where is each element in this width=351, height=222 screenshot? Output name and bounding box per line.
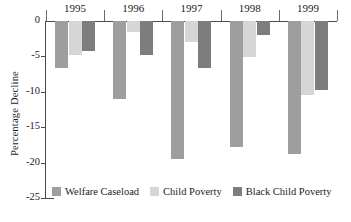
bar-group (104, 21, 162, 198)
group-separator (162, 10, 163, 21)
plot-area (46, 21, 337, 198)
bar (301, 21, 314, 95)
legend-swatch-icon (150, 187, 159, 196)
bar (82, 21, 95, 51)
x-category-label-1995: 1995 (46, 3, 104, 14)
legend-item: Welfare Caseload (52, 186, 139, 197)
group-separator (221, 10, 222, 21)
bar-group (162, 21, 220, 198)
group-separator (337, 10, 338, 21)
y-tick-label: -25 (14, 192, 40, 203)
bar (315, 21, 328, 90)
y-tick-label: -10 (14, 86, 40, 97)
bar (69, 21, 82, 55)
bar (198, 21, 211, 68)
bar-chart: Percentage Decline 0-5-10-15-20-25 19951… (0, 0, 351, 222)
bar (185, 21, 198, 42)
legend-item: Black Child Poverty (233, 186, 332, 197)
bar-group (279, 21, 337, 198)
bar (140, 21, 153, 55)
bar (171, 21, 184, 159)
x-category-label-1997: 1997 (162, 3, 220, 14)
group-separator (279, 10, 280, 21)
bar (55, 21, 68, 68)
y-axis-bottom-tick (45, 198, 54, 199)
bar (113, 21, 126, 99)
legend-label: Child Poverty (163, 186, 222, 197)
bar (257, 21, 270, 35)
y-axis-tick-labels: 0-5-10-15-20-25 (14, 0, 40, 222)
x-category-label-1998: 1998 (221, 3, 279, 14)
x-category-label-1999: 1999 (279, 3, 337, 14)
bar (230, 21, 243, 147)
legend-swatch-icon (52, 187, 61, 196)
x-category-label-1996: 1996 (104, 3, 162, 14)
y-tick-label: -5 (14, 50, 40, 61)
legend-item: Child Poverty (150, 186, 222, 197)
legend-label: Welfare Caseload (65, 186, 139, 197)
chart-legend: Welfare CaseloadChild PovertyBlack Child… (52, 186, 336, 197)
bar-group (46, 21, 104, 198)
group-separator (104, 10, 105, 21)
bar (127, 21, 140, 32)
y-tick-label: 0 (14, 15, 40, 26)
y-tick-label: -15 (14, 121, 40, 132)
bar (243, 21, 256, 57)
bar-group (221, 21, 279, 198)
legend-label: Black Child Poverty (246, 186, 332, 197)
y-tick-label: -20 (14, 157, 40, 168)
group-separator (46, 10, 47, 21)
y-tick-mark (41, 198, 46, 199)
bar (288, 21, 301, 154)
legend-swatch-icon (233, 187, 242, 196)
